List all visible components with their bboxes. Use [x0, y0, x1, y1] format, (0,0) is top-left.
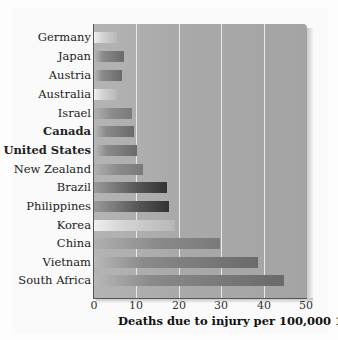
bar-philippines	[94, 201, 169, 212]
x-tick-0: 0	[82, 299, 106, 312]
row-label-austria: Austria	[1, 68, 91, 82]
row-label-japan: Japan	[1, 49, 91, 63]
row-label-united-states: United States	[1, 143, 91, 157]
bar-israel	[94, 108, 132, 119]
bar-japan	[94, 51, 124, 62]
bar-united-states	[94, 145, 137, 156]
bar-korea	[94, 220, 175, 231]
bar-brazil	[94, 182, 167, 193]
bar-south-africa	[94, 275, 284, 286]
row-label-philippines: Philippines	[1, 199, 91, 213]
row-label-vietnam: Vietnam	[1, 255, 91, 269]
x-tick-50: 50	[294, 299, 318, 312]
y-axis-line	[93, 24, 94, 299]
row-label-new-zealand: New Zealand	[1, 162, 91, 176]
bar-new-zealand	[94, 164, 143, 175]
row-label-australia: Australia	[1, 87, 91, 101]
x-axis-label: Deaths due to injury per 100,000 1- to 1…	[118, 314, 338, 328]
gridline-40	[264, 24, 265, 298]
row-label-germany: Germany	[1, 30, 91, 44]
row-label-israel: Israel	[1, 106, 91, 120]
row-label-korea: Korea	[1, 218, 91, 232]
x-tick-30: 30	[209, 299, 233, 312]
bar-austria	[94, 70, 122, 81]
bar-vietnam	[94, 257, 258, 268]
row-label-china: China	[1, 236, 91, 250]
row-label-brazil: Brazil	[1, 180, 91, 194]
x-tick-40: 40	[252, 299, 276, 312]
plot-shadow-right	[307, 28, 313, 300]
x-tick-20: 20	[167, 299, 191, 312]
bar-germany	[94, 32, 117, 43]
row-label-south-africa: South Africa	[1, 273, 91, 287]
x-tick-10: 10	[124, 299, 148, 312]
bar-australia	[94, 89, 117, 100]
bar-china	[94, 238, 220, 249]
bar-canada	[94, 126, 134, 137]
row-label-canada: Canada	[1, 124, 91, 138]
